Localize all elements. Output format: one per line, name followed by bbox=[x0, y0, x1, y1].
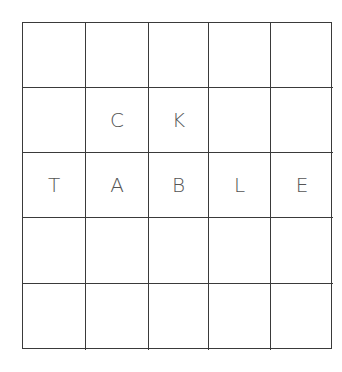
grid-cell-r4-c2 bbox=[149, 284, 209, 350]
grid-cell-r1-c3 bbox=[209, 88, 271, 153]
grid-cell-r0-c4 bbox=[271, 23, 333, 88]
grid-cell-r1-c2: K bbox=[149, 88, 209, 153]
grid-cell-r3-c3 bbox=[209, 218, 271, 284]
grid-cell-r0-c1 bbox=[86, 23, 149, 88]
grid-cell-r2-c0: T bbox=[23, 153, 86, 218]
grid-cell-r2-c1: A bbox=[86, 153, 149, 218]
grid-cell-r0-c0 bbox=[23, 23, 86, 88]
grid-cell-r3-c4 bbox=[271, 218, 333, 284]
letter-grid: C K T A B L E bbox=[22, 22, 332, 349]
grid-cell-r1-c1: C bbox=[86, 88, 149, 153]
grid-cell-r2-c2: B bbox=[149, 153, 209, 218]
grid-cell-r4-c4 bbox=[271, 284, 333, 350]
grid-cell-r4-c0 bbox=[23, 284, 86, 350]
grid-cell-r4-c1 bbox=[86, 284, 149, 350]
grid-cell-r0-c2 bbox=[149, 23, 209, 88]
grid-cell-r2-c3: L bbox=[209, 153, 271, 218]
grid-cell-r2-c4: E bbox=[271, 153, 333, 218]
grid-cell-r4-c3 bbox=[209, 284, 271, 350]
grid-cell-r1-c4 bbox=[271, 88, 333, 153]
grid-cell-r0-c3 bbox=[209, 23, 271, 88]
grid-cell-r3-c1 bbox=[86, 218, 149, 284]
grid-cell-r1-c0 bbox=[23, 88, 86, 153]
grid-cell-r3-c2 bbox=[149, 218, 209, 284]
grid-cell-r3-c0 bbox=[23, 218, 86, 284]
